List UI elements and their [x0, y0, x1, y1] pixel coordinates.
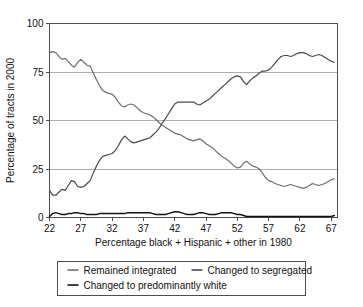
legend-label-2: Changed to segregated [208, 265, 313, 276]
legend-label-3: Changed to predominantly white [84, 280, 228, 291]
y-axis-title: Percentage of tracts in 2000 [5, 58, 16, 184]
x-tick-label-22: 22 [44, 223, 56, 234]
x-tick-label-62: 62 [294, 223, 306, 234]
chart-figure: 025507510022273237424752576267Percentage… [0, 0, 363, 307]
x-tick-label-67: 67 [326, 223, 338, 234]
x-tick-label-47: 47 [200, 223, 212, 234]
x-tick-label-52: 52 [232, 223, 244, 234]
legend-label-1: Remained integrated [84, 265, 177, 276]
y-tick-label-100: 100 [27, 18, 44, 29]
y-tick-label-50: 50 [32, 115, 44, 126]
y-tick-label-25: 25 [32, 164, 44, 175]
x-tick-label-42: 42 [169, 223, 181, 234]
x-tick-label-57: 57 [263, 223, 275, 234]
series-line-2 [50, 53, 335, 196]
y-tick-label-0: 0 [38, 212, 44, 223]
y-tick-label-75: 75 [32, 67, 44, 78]
x-axis-title: Percentage black + Hispanic + other in 1… [95, 237, 292, 248]
series-line-3 [50, 212, 335, 217]
x-tick-label-32: 32 [107, 223, 119, 234]
x-tick-label-37: 37 [138, 223, 150, 234]
line-chart: 025507510022273237424752576267Percentage… [0, 0, 363, 307]
x-tick-label-27: 27 [75, 223, 87, 234]
